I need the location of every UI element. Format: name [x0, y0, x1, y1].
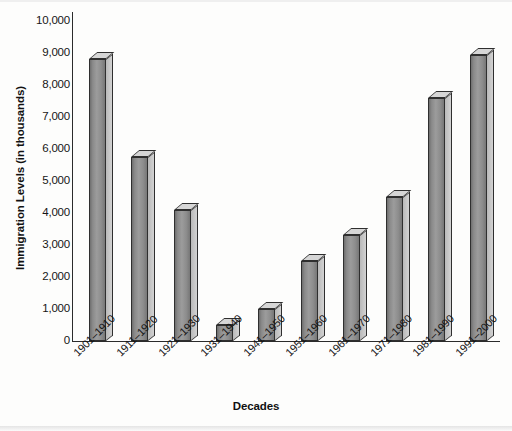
- x-tick-label: 1961–1970: [326, 312, 372, 358]
- x-tick-label: 1991–2000: [453, 312, 499, 358]
- x-tick-label: 1921–1930: [156, 312, 202, 358]
- x-tick-label: 1911–1920: [114, 313, 160, 359]
- x-tick-label: 1941–1950: [241, 312, 287, 358]
- x-tick-label: 1931–1940: [198, 312, 244, 358]
- x-axis-tick-labels: 1901–19101911–19201921–19301931–19401941…: [0, 0, 512, 431]
- x-tick-label: 1951–1960: [283, 312, 329, 358]
- x-axis-title: Decades: [0, 400, 512, 412]
- x-tick-label: 1901–1910: [71, 312, 117, 358]
- x-tick-label: 1971–1980: [368, 312, 414, 358]
- scan-edge-bottom: [0, 426, 512, 431]
- immigration-bar-chart: Immigration Levels (in thousands) 10,000…: [0, 0, 512, 431]
- x-tick-label: 1981–1990: [410, 312, 456, 358]
